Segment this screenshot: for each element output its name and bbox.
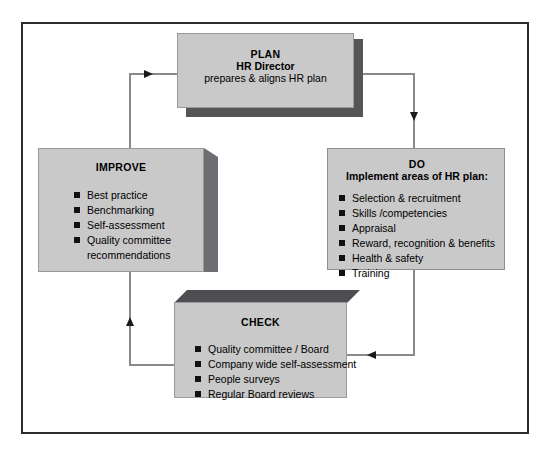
list-item: Quality committee [74, 233, 171, 248]
list-item: Health & safety [339, 251, 495, 266]
node-plan[interactable]: PLAN HR Director prepares & aligns HR pl… [177, 33, 363, 117]
node-improve[interactable]: IMPROVE Best practice Benchmarking Self-… [38, 148, 218, 272]
improve-side-bevel [204, 148, 218, 272]
do-subtitle: Implement areas of HR plan: [328, 170, 506, 182]
plan-shadow-bottom [186, 108, 363, 117]
plan-subtitle: HR Director [177, 60, 354, 72]
do-title: DO [328, 158, 506, 170]
list-item: Selection & recruitment [339, 191, 495, 206]
check-title: CHECK [174, 316, 347, 328]
list-item: Skills /competencies [339, 206, 495, 221]
improve-text-block: IMPROVE [38, 161, 204, 173]
list-item: Training [339, 266, 495, 281]
list-item: Self-assessment [74, 218, 171, 233]
list-item: Company wide self-assessment [195, 357, 356, 372]
check-text-block: CHECK [174, 316, 347, 328]
list-item: Best practice [74, 188, 171, 203]
plan-text-block: PLAN HR Director prepares & aligns HR pl… [177, 48, 354, 85]
list-item-continuation: recommendations [74, 248, 171, 263]
plan-shadow-right [354, 39, 363, 117]
list-item: Regular Board reviews [195, 387, 356, 402]
plan-title: PLAN [177, 48, 354, 60]
do-text-block: DO Implement areas of HR plan: [328, 158, 506, 182]
list-item: Appraisal [339, 221, 495, 236]
node-check[interactable]: CHECK Quality committee / Board Company … [174, 290, 360, 398]
do-bullet-list: Selection & recruitment Skills /competen… [339, 191, 495, 280]
list-item: People surveys [195, 372, 356, 387]
list-item: Reward, recognition & benefits [339, 236, 495, 251]
list-item: Quality committee / Board [195, 342, 356, 357]
check-bullet-list: Quality committee / Board Company wide s… [195, 342, 356, 402]
node-do[interactable]: DO Implement areas of HR plan: Selection… [327, 148, 505, 270]
improve-title: IMPROVE [38, 161, 204, 173]
improve-bullet-list: Best practice Benchmarking Self-assessme… [74, 188, 171, 263]
pdca-diagram-canvas: PLAN HR Director prepares & aligns HR pl… [0, 0, 552, 457]
list-item: Benchmarking [74, 203, 171, 218]
plan-description: prepares & aligns HR plan [177, 72, 354, 85]
